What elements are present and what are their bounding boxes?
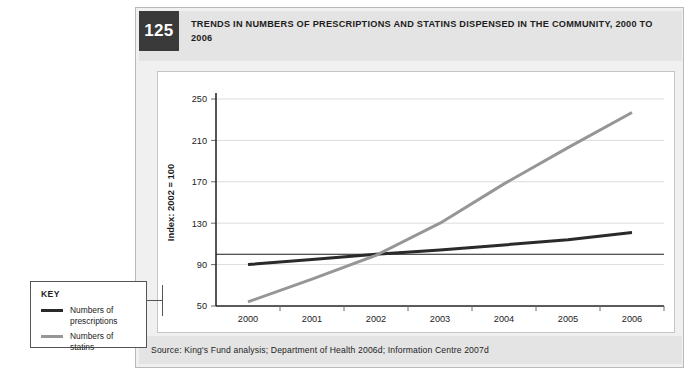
legend-label: Numbers of prescriptions: [70, 305, 138, 326]
x-axis-tick-label: 2004: [494, 314, 514, 324]
legend-swatch: [41, 309, 63, 312]
x-axis-tick-label: 2006: [622, 314, 642, 324]
y-axis-tick-label: 170: [192, 177, 207, 187]
chart-plot-panel: 5090130170210250200020012002200320042005…: [157, 71, 675, 333]
y-axis-tick-label: 210: [192, 136, 207, 146]
legend-entries: Numbers of prescriptionsNumbers of stati…: [41, 305, 138, 352]
y-axis-tick-label: 50: [197, 301, 207, 311]
legend-heading: KEY: [41, 289, 138, 299]
y-axis-tick-label: 130: [192, 219, 207, 229]
x-axis-title: Year: [430, 329, 450, 332]
line-chart: 5090130170210250200020012002200320042005…: [158, 72, 674, 332]
source-note: Source: King's Fund analysis; Department…: [139, 345, 489, 355]
x-axis-tick-label: 2002: [366, 314, 386, 324]
legend-item: Numbers of prescriptions: [41, 305, 138, 326]
legend-item: Numbers of statins: [41, 331, 138, 352]
y-axis-title: Index: 2002 = 100: [165, 164, 176, 241]
key-connector-line: [147, 300, 163, 301]
x-axis-tick-label: 2005: [558, 314, 578, 324]
figure-number-badge: 125: [139, 11, 179, 51]
figure-title: TRENDS IN NUMBERS OF PRESCRIPTIONS AND S…: [191, 18, 671, 45]
legend-label: Numbers of statins: [70, 331, 138, 352]
y-axis-tick-label: 90: [197, 260, 207, 270]
figure-container: 125 TRENDS IN NUMBERS OF PRESCRIPTIONS A…: [135, 7, 684, 368]
data-series-line: [248, 233, 632, 265]
x-axis-tick-label: 2003: [430, 314, 450, 324]
x-axis-tick-label: 2001: [302, 314, 322, 324]
source-bar: Source: King's Fund analysis; Department…: [139, 336, 682, 364]
legend-swatch: [41, 335, 63, 338]
key-connector-line-vertical: [162, 285, 163, 316]
figure-title-bar: 125 TRENDS IN NUMBERS OF PRESCRIPTIONS A…: [139, 11, 682, 61]
y-axis-tick-label: 250: [192, 94, 207, 104]
chart-legend: KEY Numbers of prescriptionsNumbers of s…: [30, 281, 147, 348]
x-axis-tick-label: 2000: [238, 314, 258, 324]
